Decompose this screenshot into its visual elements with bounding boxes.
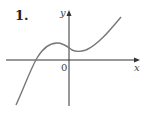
y-axis-arrow-icon — [67, 10, 72, 16]
y-axis-label: y — [59, 7, 66, 18]
graph: y x 0 — [0, 0, 151, 115]
x-axis-label: x — [134, 62, 140, 73]
origin-label: 0 — [61, 62, 67, 73]
